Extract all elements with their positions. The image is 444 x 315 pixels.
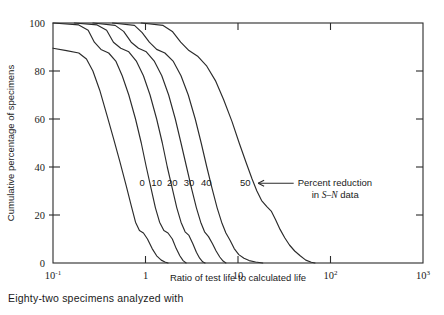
curve-50 (141, 23, 315, 263)
y-tick-label: 20 (35, 210, 46, 221)
y-tick-label: 100 (29, 18, 45, 29)
curve-label-0: 0 (140, 177, 145, 188)
curve-0 (53, 48, 168, 263)
curve-label-20: 20 (167, 177, 178, 188)
x-tick-label: 1 (143, 270, 148, 281)
annotation-line-2: in S–N data (312, 189, 360, 200)
curve-20 (74, 23, 205, 263)
x-tick-label: 102 (324, 269, 339, 281)
y-axis-ticks (49, 71, 423, 215)
data-curves (53, 23, 315, 263)
y-tick-label: 60 (35, 114, 46, 125)
figure-caption: Eighty-two specimens analyzed with (8, 292, 183, 304)
x-tick-label: 10-1 (45, 269, 62, 281)
curve-label-50: 50 (240, 177, 251, 188)
curve-labels: 01020304050 (140, 177, 251, 188)
curve-label-10: 10 (151, 177, 162, 188)
y-tick-label: 80 (35, 66, 46, 77)
y-axis-title: Cumulative percentage of specimens (5, 65, 16, 222)
y-tick-label: 0 (40, 258, 45, 269)
curve-label-40: 40 (201, 177, 212, 188)
x-axis-title: Ratio of test life to calculated life (170, 272, 306, 283)
y-tick-label: 40 (35, 162, 46, 173)
figure-container: 10-1110102103 020406080100 01020304050 P… (0, 0, 444, 285)
x-tick-label: 103 (416, 269, 431, 281)
plot-frame (53, 23, 423, 263)
cumulative-percentage-chart: 10-1110102103 020406080100 01020304050 P… (0, 0, 444, 285)
y-axis-tick-labels: 020406080100 (29, 18, 45, 269)
x-axis-ticks (146, 23, 331, 263)
curve-10 (53, 23, 186, 263)
curve-30 (93, 23, 226, 263)
annotation-line-1: Percent reduction (298, 177, 372, 188)
curve-label-30: 30 (184, 177, 195, 188)
annotation-percent-reduction: Percent reductionin S–N data (258, 177, 372, 200)
